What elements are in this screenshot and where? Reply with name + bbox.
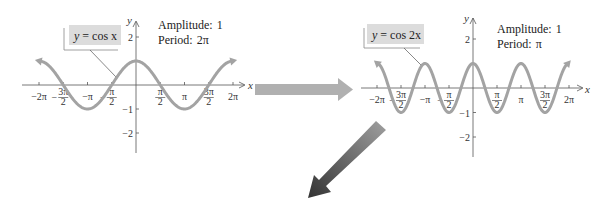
- svg-text:−π: −π: [420, 94, 431, 105]
- transform-arrow-down-left: [308, 121, 386, 198]
- x-axis-label: x: [584, 83, 590, 95]
- leader-line: [404, 48, 422, 66]
- graph-cos-2x: y= cos 2x x y −2π−3π2−π−π2π2π3π22π 2−1−2…: [361, 12, 590, 157]
- period-text: Period:2π: [158, 33, 209, 47]
- arrow-down-left-icon: [308, 121, 386, 198]
- svg-text:−2π: −2π: [31, 91, 47, 102]
- arrow-right-icon: [338, 78, 353, 101]
- y-axis-label: y: [126, 14, 132, 26]
- svg-text:2: 2: [447, 99, 452, 110]
- x-axis-label: x: [247, 79, 253, 91]
- svg-text:2: 2: [495, 99, 500, 110]
- period-text: Period:π: [497, 37, 542, 51]
- curve-arrowhead-icon: [230, 58, 238, 66]
- svg-text:2: 2: [399, 99, 404, 110]
- svg-text:−2π: −2π: [369, 94, 385, 105]
- svg-text:2π: 2π: [228, 91, 238, 102]
- svg-text:π: π: [182, 91, 187, 102]
- y-axis-label: y: [463, 12, 469, 24]
- transform-arrow-right: [255, 78, 353, 101]
- svg-text:−1: −1: [122, 104, 133, 115]
- diagram-canvas: y= cos x x y −2π−3π2−π−π2π2π3π22π 2−1−2 …: [0, 0, 599, 209]
- svg-text:−1: −1: [459, 108, 470, 119]
- amplitude-text: Amplitude:1: [497, 22, 562, 36]
- svg-text:2: 2: [128, 32, 133, 43]
- svg-text:2π: 2π: [564, 94, 574, 105]
- curve-arrowhead-icon: [35, 58, 43, 66]
- x-ticks: −2π−3π2−π−π2π2π3π22π: [369, 85, 574, 110]
- svg-text:2: 2: [61, 96, 66, 107]
- svg-text:−2: −2: [459, 132, 470, 143]
- y-ticks: 2−1−2: [122, 32, 139, 139]
- svg-text:π: π: [518, 94, 523, 105]
- svg-text:2: 2: [543, 99, 548, 110]
- graph-cos-x: y= cos x x y −2π−3π2−π−π2π2π3π22π 2−1−2 …: [22, 14, 253, 153]
- svg-text:−2: −2: [122, 128, 133, 139]
- amplitude-text: Amplitude:1: [158, 18, 223, 32]
- svg-text:2: 2: [158, 96, 163, 107]
- svg-text:−π: −π: [82, 91, 93, 102]
- leader-line: [90, 50, 116, 77]
- svg-text:2: 2: [465, 34, 470, 45]
- svg-text:2: 2: [206, 96, 211, 107]
- svg-text:−: −: [51, 92, 57, 103]
- svg-text:2: 2: [109, 96, 114, 107]
